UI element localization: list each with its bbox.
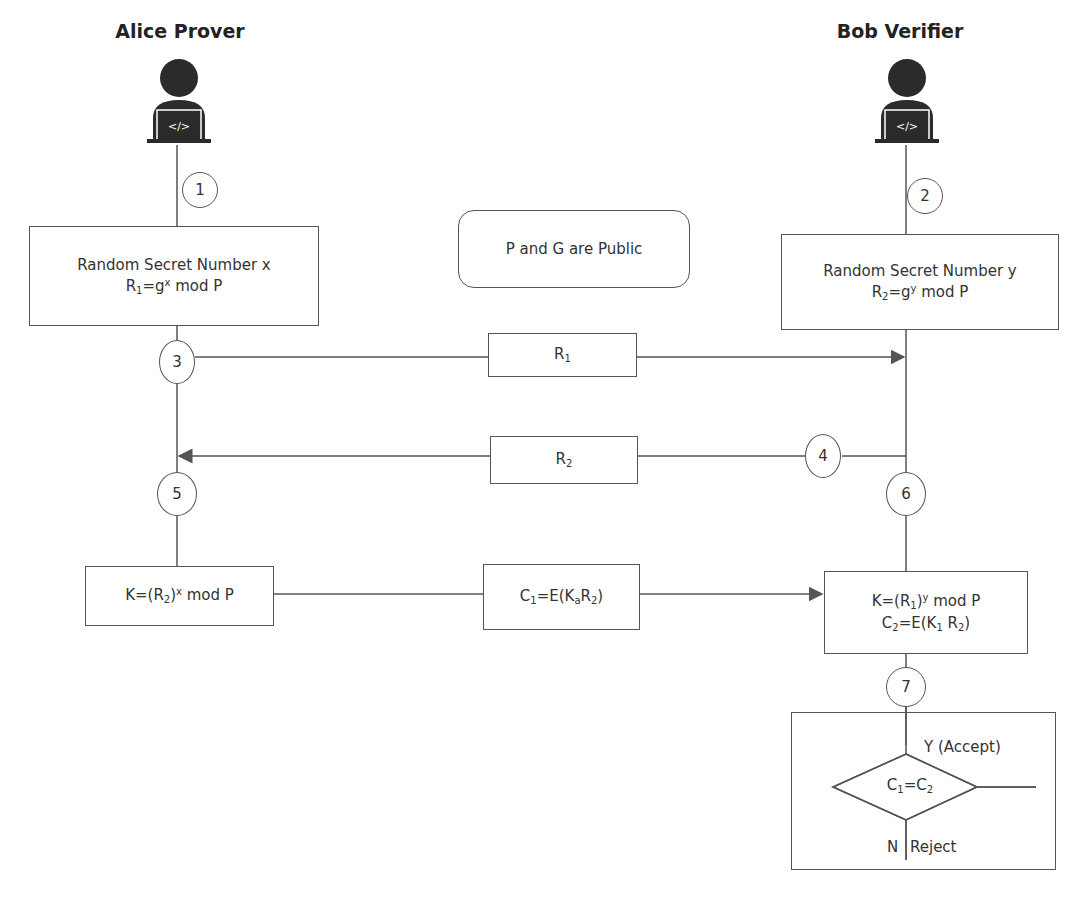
reject-label: Reject xyxy=(910,838,957,856)
decision-condition: C1=C2 xyxy=(880,776,940,795)
accept-label: Y (Accept) xyxy=(924,738,1001,756)
no-label: N xyxy=(887,838,898,856)
decision-diamond xyxy=(0,0,1085,898)
